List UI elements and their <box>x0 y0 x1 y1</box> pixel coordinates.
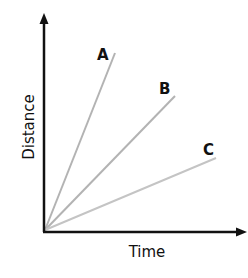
x-axis-title: Time <box>128 243 166 261</box>
y-axis-title: Distance <box>20 94 38 160</box>
label-c: C <box>203 141 214 159</box>
line-b <box>45 96 175 230</box>
line-c <box>45 158 216 230</box>
x-axis-arrow-icon <box>236 228 247 237</box>
label-b: B <box>159 80 170 98</box>
distance-time-chart: A B C Distance Time <box>0 0 248 278</box>
line-a <box>45 53 115 230</box>
label-a: A <box>97 46 109 64</box>
y-axis-arrow-icon <box>40 13 49 24</box>
